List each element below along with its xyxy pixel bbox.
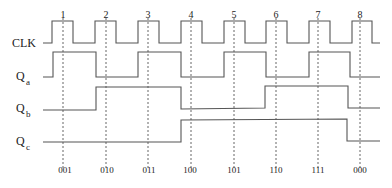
qb-subscript: b [26,109,31,119]
edge-5: 5 [232,9,237,20]
timing-diagram: CLK Q a Q b Q c 1 2 3 4 5 6 7 8 001 010 … [0,0,392,188]
clock-edge-numbers: 1 2 3 4 5 6 7 8 [61,9,363,20]
qc-label: Q [16,134,25,148]
state-8: 000 [353,165,367,175]
state-2: 010 [100,165,114,175]
edge-6: 6 [274,9,279,20]
qb-waveform [43,86,380,110]
edge-4: 4 [189,9,194,20]
qa-waveform [43,52,380,77]
state-6: 110 [269,165,283,175]
state-labels: 001 010 011 100 101 110 111 000 [58,165,367,175]
qa-subscript: a [26,77,30,87]
clk-label: CLK [12,36,36,50]
edge-7: 7 [316,9,321,20]
qb-label: Q [16,101,25,115]
edge-3: 3 [146,9,151,20]
state-5: 101 [227,165,241,175]
qc-waveform [43,119,380,142]
edge-8: 8 [358,9,363,20]
state-3: 011 [142,165,155,175]
sampling-lines [63,18,360,170]
edge-1: 1 [61,9,66,20]
state-4: 100 [183,165,197,175]
qc-subscript: c [26,142,30,152]
state-7: 111 [312,165,325,175]
qa-label: Q [16,69,25,83]
edge-2: 2 [104,9,109,20]
state-1: 001 [58,165,72,175]
clk-waveform [43,21,380,43]
